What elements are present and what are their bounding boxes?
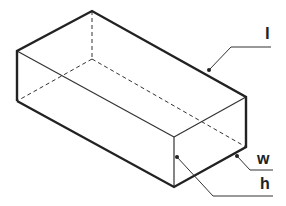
box-diagram [0, 0, 286, 206]
outline-edges [17, 11, 246, 187]
height-label: h [260, 176, 270, 192]
width-label: w [257, 151, 269, 167]
length-label: l [265, 25, 270, 42]
leader-dots [175, 68, 239, 159]
length-leader [209, 47, 271, 70]
leader-lines [177, 47, 273, 196]
